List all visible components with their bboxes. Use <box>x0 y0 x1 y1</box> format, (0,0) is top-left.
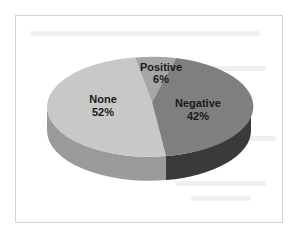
pie-chart: Positive 6% Negative 42% None 52% <box>0 0 295 235</box>
label-negative-name: Negative <box>175 97 221 109</box>
label-negative-value: 42% <box>187 110 209 122</box>
label-none-name: None <box>89 93 117 105</box>
label-positive-value: 6% <box>153 73 169 85</box>
label-positive-name: Positive <box>140 61 182 73</box>
label-none-value: 52% <box>92 106 114 118</box>
